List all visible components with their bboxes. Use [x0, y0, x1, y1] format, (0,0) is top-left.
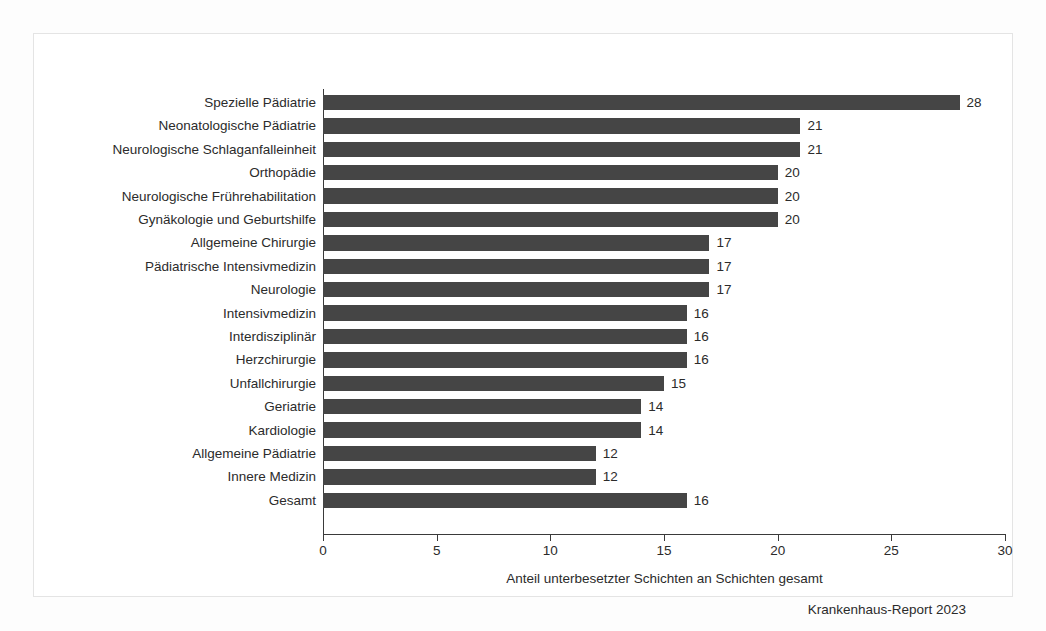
- bar-row: Neonatologische Pädiatrie21: [323, 114, 1005, 137]
- bar-row: Pädiatrische Intensivmedizin17: [323, 255, 1005, 278]
- x-tick-label: 5: [433, 543, 441, 558]
- category-label: Innere Medizin: [227, 465, 316, 488]
- bar-value-label: 20: [778, 161, 800, 184]
- bar: [323, 469, 596, 485]
- category-label: Neurologische Schlaganfalleinheit: [113, 138, 316, 161]
- bar-row: Neurologische Frührehabilitation20: [323, 185, 1005, 208]
- bar-value-label: 28: [960, 91, 982, 114]
- x-tick-label: 20: [770, 543, 785, 558]
- x-axis-title: Anteil unterbesetzter Schichten an Schic…: [323, 571, 1006, 586]
- bar: [323, 142, 800, 158]
- bar: [323, 95, 960, 111]
- category-label: Pädiatrische Intensivmedizin: [145, 255, 316, 278]
- category-label: Neonatologische Pädiatrie: [158, 114, 316, 137]
- bar-value-label: 14: [641, 395, 663, 418]
- bar-row: Orthopädie20: [323, 161, 1005, 184]
- bar: [323, 235, 709, 251]
- bar-value-label: 16: [687, 348, 709, 371]
- bar: [323, 422, 641, 438]
- source-note: Krankenhaus-Report 2023: [808, 602, 966, 617]
- figure-container: Spezielle Pädiatrie28Neonatologische Päd…: [0, 0, 1046, 631]
- bar-value-label: 17: [709, 255, 731, 278]
- category-label: Intensivmedizin: [223, 302, 316, 325]
- bar-row: Gynäkologie und Geburtshilfe20: [323, 208, 1005, 231]
- bar: [323, 352, 687, 368]
- bar-row: Neurologische Schlaganfalleinheit21: [323, 138, 1005, 161]
- bar: [323, 376, 664, 392]
- category-label: Gesamt: [269, 489, 316, 512]
- category-label: Geriatrie: [264, 395, 316, 418]
- bar-value-label: 21: [800, 114, 822, 137]
- bar-row: Intensivmedizin16: [323, 302, 1005, 325]
- category-label: Allgemeine Pädiatrie: [192, 442, 316, 465]
- bar: [323, 493, 687, 509]
- bar: [323, 329, 687, 345]
- bar-value-label: 21: [800, 138, 822, 161]
- bar-row: Allgemeine Pädiatrie12: [323, 442, 1005, 465]
- x-tick-label: 0: [319, 543, 327, 558]
- x-tick-label: 25: [884, 543, 899, 558]
- chart-frame: Spezielle Pädiatrie28Neonatologische Päd…: [33, 33, 1013, 597]
- bar-row: Innere Medizin12: [323, 465, 1005, 488]
- bar: [323, 212, 778, 228]
- bar-row: Geriatrie14: [323, 395, 1005, 418]
- bar: [323, 446, 596, 462]
- bar-row: Neurologie17: [323, 278, 1005, 301]
- x-tick-label: 15: [656, 543, 671, 558]
- x-tick-mark: [1005, 535, 1006, 541]
- bar-row: Kardiologie14: [323, 419, 1005, 442]
- category-label: Neurologische Frührehabilitation: [122, 185, 316, 208]
- category-label: Allgemeine Chirurgie: [191, 231, 316, 254]
- bar: [323, 282, 709, 298]
- bar-row: Spezielle Pädiatrie28: [323, 91, 1005, 114]
- bar-value-label: 16: [687, 325, 709, 348]
- bar: [323, 259, 709, 275]
- bar-row: Herzchirurgie16: [323, 348, 1005, 371]
- x-tick-mark: [778, 535, 779, 541]
- bar-value-label: 14: [641, 419, 663, 442]
- bar-value-label: 20: [778, 185, 800, 208]
- plot-area: Spezielle Pädiatrie28Neonatologische Päd…: [323, 91, 1005, 534]
- category-label: Kardiologie: [248, 419, 316, 442]
- bar-row: Allgemeine Chirurgie17: [323, 231, 1005, 254]
- bar-value-label: 17: [709, 231, 731, 254]
- bar-value-label: 12: [596, 442, 618, 465]
- bar-value-label: 15: [664, 372, 686, 395]
- category-label: Gynäkologie und Geburtshilfe: [138, 208, 316, 231]
- bar-row: Unfallchirurgie15: [323, 372, 1005, 395]
- bar-value-label: 20: [778, 208, 800, 231]
- bar-value-label: 16: [687, 302, 709, 325]
- bar-value-label: 16: [687, 489, 709, 512]
- category-label: Interdisziplinär: [229, 325, 316, 348]
- category-label: Herzchirurgie: [236, 348, 316, 371]
- bar-value-label: 17: [709, 278, 731, 301]
- category-label: Spezielle Pädiatrie: [204, 91, 316, 114]
- x-tick-mark: [437, 535, 438, 541]
- bar: [323, 118, 800, 134]
- bar-row: Gesamt16: [323, 489, 1005, 512]
- bar: [323, 305, 687, 321]
- x-tick-mark: [891, 535, 892, 541]
- bar: [323, 165, 778, 181]
- x-tick-mark: [323, 535, 324, 541]
- bar: [323, 188, 778, 204]
- category-label: Unfallchirurgie: [230, 372, 316, 395]
- x-tick-mark: [664, 535, 665, 541]
- bar-value-label: 12: [596, 465, 618, 488]
- x-tick-label: 10: [543, 543, 558, 558]
- bar-row: Interdisziplinär16: [323, 325, 1005, 348]
- x-tick-mark: [550, 535, 551, 541]
- category-label: Neurologie: [251, 278, 316, 301]
- x-tick-label: 30: [997, 543, 1012, 558]
- bar: [323, 399, 641, 415]
- category-label: Orthopädie: [249, 161, 316, 184]
